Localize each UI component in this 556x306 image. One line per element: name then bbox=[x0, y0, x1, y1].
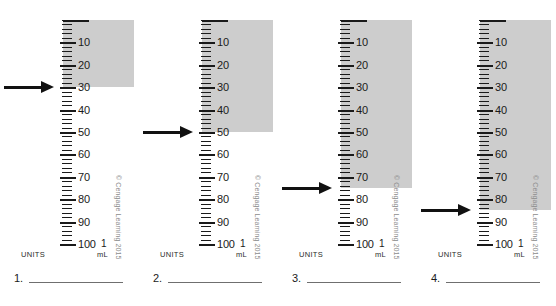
scale-tick-major bbox=[477, 222, 493, 224]
scale-tick-major bbox=[338, 87, 354, 89]
scale-tick-minor bbox=[62, 51, 72, 52]
scale-tick-minor bbox=[340, 24, 350, 25]
scale-tick-minor bbox=[62, 78, 72, 79]
scale-tick-minor bbox=[201, 96, 211, 97]
volume-label: mL bbox=[236, 250, 247, 259]
scale-tick-minor bbox=[201, 78, 211, 79]
scale-tick-minor bbox=[201, 128, 211, 129]
scale-tick-minor bbox=[201, 69, 211, 70]
scale-number: 100 bbox=[356, 239, 374, 250]
scale-tick-minor bbox=[479, 29, 489, 30]
scale-tick-major bbox=[199, 199, 215, 201]
scale-number: 100 bbox=[217, 239, 235, 250]
scale-number: 70 bbox=[495, 172, 507, 183]
scale-tick-minor bbox=[479, 226, 489, 227]
syringe-barrel: 102030405060708090100 bbox=[195, 16, 273, 248]
scale-tick-minor bbox=[340, 208, 350, 209]
scale-tick-major bbox=[338, 177, 354, 179]
answer-number: 4. bbox=[431, 272, 440, 284]
units-label: UNITS bbox=[21, 250, 45, 259]
scale-tick-minor bbox=[340, 159, 350, 160]
copyright-notice: © Cengage Learning 2015 bbox=[254, 175, 261, 260]
scale-number: 40 bbox=[78, 105, 90, 116]
scale-tick-minor bbox=[201, 172, 211, 173]
scale-tick-minor bbox=[62, 226, 72, 227]
scale-tick-minor bbox=[340, 128, 350, 129]
scale-tick-minor bbox=[201, 163, 211, 164]
scale-tick-minor bbox=[340, 213, 350, 214]
scale-tick-minor bbox=[62, 74, 72, 75]
answer-blank[interactable]: 4. bbox=[431, 268, 540, 288]
scale-tick-major bbox=[60, 42, 76, 44]
scale-tick-minor bbox=[201, 29, 211, 30]
scale-tick-minor bbox=[340, 114, 350, 115]
syringe-problem: 102030405060708090100UNITS1mL© Cengage L… bbox=[0, 0, 139, 306]
scale-tick-minor bbox=[340, 145, 350, 146]
scale-tick-minor bbox=[62, 56, 72, 57]
scale-tick-minor bbox=[62, 69, 72, 70]
scale-number: 10 bbox=[495, 37, 507, 48]
scale-tick-minor bbox=[479, 190, 489, 191]
scale-number: 20 bbox=[217, 60, 229, 71]
scale-tick-minor bbox=[479, 119, 489, 120]
scale-tick-minor bbox=[340, 38, 350, 39]
syringe-worksheet: 102030405060708090100UNITS1mL© Cengage L… bbox=[0, 0, 556, 306]
scale-tick-minor bbox=[201, 123, 211, 124]
measurement-arrow bbox=[4, 80, 56, 94]
scale-number: 80 bbox=[356, 194, 368, 205]
scale-tick-minor bbox=[62, 105, 72, 106]
scale-tick-major bbox=[338, 244, 354, 246]
scale-number: 20 bbox=[495, 60, 507, 71]
scale-tick-minor bbox=[479, 141, 489, 142]
scale-tick-minor bbox=[479, 204, 489, 205]
units-label: UNITS bbox=[438, 250, 462, 259]
scale-tick-major bbox=[60, 199, 76, 201]
scale-tick-minor bbox=[479, 96, 489, 97]
scale-tick-major bbox=[338, 132, 354, 134]
scale-tick-minor bbox=[62, 231, 72, 232]
scale-tick-minor bbox=[479, 83, 489, 84]
scale-number: 90 bbox=[495, 217, 507, 228]
answer-blank[interactable]: 1. bbox=[14, 268, 123, 288]
answer-blank[interactable]: 3. bbox=[292, 268, 401, 288]
scale-tick-major bbox=[199, 222, 215, 224]
scale-tick-minor bbox=[479, 235, 489, 236]
scale-tick-major bbox=[477, 87, 493, 89]
scale-number: 10 bbox=[356, 37, 368, 48]
answer-write-line[interactable] bbox=[29, 282, 123, 283]
scale-tick-minor bbox=[62, 235, 72, 236]
arrow-shaft bbox=[4, 86, 44, 89]
scale-tick-minor bbox=[62, 172, 72, 173]
scale-tick-major bbox=[199, 110, 215, 112]
scale-tick-minor bbox=[201, 240, 211, 241]
scale-number: 10 bbox=[78, 37, 90, 48]
scale-tick-minor bbox=[340, 74, 350, 75]
answer-write-line[interactable] bbox=[446, 282, 540, 283]
scale-tick-minor bbox=[479, 38, 489, 39]
scale-tick-minor bbox=[62, 83, 72, 84]
scale-tick-major bbox=[338, 42, 354, 44]
scale-number: 70 bbox=[217, 172, 229, 183]
scale-tick-minor bbox=[340, 195, 350, 196]
scale-tick-minor bbox=[62, 195, 72, 196]
answer-blank[interactable]: 2. bbox=[153, 268, 262, 288]
scale-number: 30 bbox=[217, 82, 229, 93]
answer-write-line[interactable] bbox=[168, 282, 262, 283]
scale-tick-minor bbox=[201, 141, 211, 142]
scale-tick-minor bbox=[62, 141, 72, 142]
scale-tick-minor bbox=[201, 38, 211, 39]
scale-tick-minor bbox=[479, 51, 489, 52]
arrow-head-icon bbox=[41, 81, 54, 93]
scale-tick-minor bbox=[62, 128, 72, 129]
volume-label: mL bbox=[514, 250, 525, 259]
scale-tick-minor bbox=[340, 186, 350, 187]
scale-tick-minor bbox=[62, 123, 72, 124]
answer-write-line[interactable] bbox=[307, 282, 401, 283]
scale-number: 70 bbox=[78, 172, 90, 183]
scale-tick-minor bbox=[201, 119, 211, 120]
volume-value: 1 bbox=[101, 238, 107, 249]
scale-tick-minor bbox=[201, 159, 211, 160]
scale-tick-minor bbox=[340, 69, 350, 70]
scale-number: 80 bbox=[495, 194, 507, 205]
scale-number: 30 bbox=[356, 82, 368, 93]
